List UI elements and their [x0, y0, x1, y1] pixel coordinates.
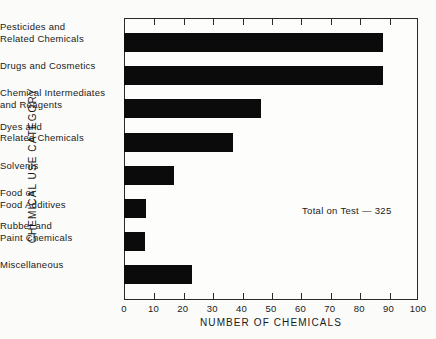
category-label: Dyes and Related Chemicals [0, 121, 112, 144]
category-label: Pesticides and Related Chemicals [0, 21, 112, 44]
x-tick-label: 90 [383, 303, 394, 314]
bar [124, 166, 174, 185]
x-tick-label: 100 [410, 303, 426, 314]
x-tick-label: 60 [295, 303, 306, 314]
x-axis-title: NUMBER OF CHEMICALS [124, 317, 418, 328]
bar [124, 99, 261, 118]
x-tick-labels: 0102030405060708090100 [0, 303, 436, 317]
category-label: Chemical Intermediates and Reagents [0, 87, 112, 110]
x-tick-label: 50 [266, 303, 277, 314]
y-axis-title: CHEMICAL USE CATEGORY [27, 66, 38, 266]
x-tick-label: 80 [354, 303, 365, 314]
bar [124, 199, 146, 218]
x-tick-label: 0 [121, 303, 126, 314]
x-tick-label: 20 [177, 303, 188, 314]
bars-layer [124, 18, 418, 300]
category-label: Drugs and Cosmetics [0, 60, 112, 72]
x-tick-label: 70 [324, 303, 335, 314]
category-label: Solvents [0, 160, 112, 172]
bar [124, 265, 192, 284]
category-labels: Pesticides and Related ChemicalsDrugs an… [0, 18, 120, 300]
x-tick-label: 30 [207, 303, 218, 314]
category-label: Miscellaneous [0, 259, 112, 271]
bar-chart: Pesticides and Related ChemicalsDrugs an… [0, 0, 436, 339]
bar [124, 232, 145, 251]
bar [124, 33, 383, 52]
category-label: Rubber and Paint Chemicals [0, 220, 112, 243]
category-label: Food or Food Additives [0, 187, 112, 210]
x-tick-label: 10 [148, 303, 159, 314]
bar [124, 66, 383, 85]
x-tick-label: 40 [236, 303, 247, 314]
bar [124, 133, 233, 152]
total-on-test-annotation: Total on Test — 325 [302, 205, 392, 216]
